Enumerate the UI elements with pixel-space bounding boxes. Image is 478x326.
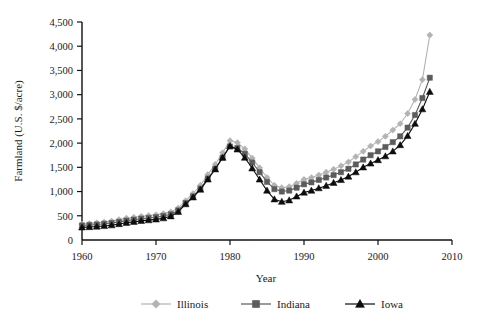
data-point-marker [338, 176, 345, 182]
data-point-marker [382, 153, 389, 159]
data-point-marker [404, 132, 411, 138]
y-tick-label: 0 [68, 235, 73, 246]
legend-marker-square-icon [252, 300, 259, 307]
y-tick-label: 4,000 [49, 41, 73, 52]
data-point-marker [412, 96, 418, 102]
chart-canvas: 05001,0001,5002,0002,5003,0003,5004,0004… [0, 0, 478, 326]
data-point-marker [301, 182, 306, 187]
data-point-marker [420, 95, 425, 100]
data-point-marker [352, 169, 359, 175]
data-point-marker [264, 187, 271, 193]
data-point-marker [398, 134, 403, 139]
data-point-marker [368, 153, 373, 158]
data-point-marker [427, 75, 432, 80]
chart-legend: IllinoisIndianaIowa [141, 298, 403, 310]
y-tick-label: 4,500 [49, 17, 73, 28]
data-point-marker [405, 125, 410, 130]
legend-label: Iowa [381, 298, 403, 310]
data-point-marker [360, 164, 367, 170]
x-tick-label: 2000 [368, 251, 389, 262]
x-tick-label: 1980 [220, 251, 241, 262]
series-illinois [79, 32, 433, 227]
legend-item-iowa[interactable]: Iowa [345, 298, 403, 310]
x-tick-label: 2010 [442, 251, 463, 262]
y-tick-label: 3,500 [49, 65, 73, 76]
data-point-marker [426, 88, 433, 94]
y-tick-label: 3,000 [49, 89, 73, 100]
data-point-marker [287, 188, 292, 193]
data-point-marker [338, 163, 344, 169]
y-axis-ticks: 05001,0001,5002,0002,5003,0003,5004,0004… [49, 17, 82, 246]
data-point-marker [316, 177, 321, 182]
x-axis-title: Year [256, 272, 277, 284]
legend-label: Indiana [277, 298, 310, 310]
data-point-marker [412, 112, 417, 117]
data-point-marker [427, 32, 433, 38]
data-point-marker [264, 179, 269, 184]
farmland-value-chart: 05001,0001,5002,0002,5003,0003,5004,0004… [0, 0, 478, 326]
data-point-marker [257, 170, 262, 175]
data-point-marker [331, 166, 337, 172]
data-point-marker [256, 176, 263, 182]
data-point-marker [346, 166, 351, 171]
data-point-marker [338, 170, 343, 175]
data-point-marker [309, 180, 314, 185]
data-point-marker [286, 197, 293, 203]
data-point-marker [375, 157, 382, 163]
legend-item-illinois[interactable]: Illinois [141, 298, 208, 310]
data-point-marker [279, 189, 284, 194]
data-point-marker [324, 175, 329, 180]
y-axis-title: Farmland (U.S. $/acre) [12, 80, 25, 182]
data-point-marker [294, 185, 299, 190]
y-tick-label: 2,000 [49, 138, 73, 149]
x-axis-ticks: 196019701980199020002010 [72, 240, 463, 262]
data-point-marker [419, 106, 426, 112]
data-point-marker [412, 120, 419, 126]
data-point-marker [390, 140, 395, 145]
data-series-group [79, 32, 434, 230]
data-point-marker [367, 160, 374, 166]
data-point-marker [375, 149, 380, 154]
legend-marker-diamond-icon [152, 300, 160, 308]
data-point-marker [361, 157, 366, 162]
series-iowa [79, 88, 434, 230]
data-point-marker [331, 172, 336, 177]
x-tick-label: 1960 [72, 251, 93, 262]
data-point-marker [353, 162, 358, 167]
series-indiana [79, 75, 432, 228]
data-point-marker [323, 169, 329, 175]
data-point-marker [383, 144, 388, 149]
y-tick-label: 500 [57, 211, 73, 222]
legend-item-indiana[interactable]: Indiana [241, 298, 310, 310]
y-tick-label: 1,500 [49, 162, 73, 173]
x-tick-label: 1990 [294, 251, 315, 262]
data-point-marker [345, 173, 352, 179]
data-point-marker [293, 193, 300, 199]
y-tick-label: 1,000 [49, 186, 73, 197]
y-tick-label: 2,500 [49, 114, 73, 125]
data-point-marker [272, 186, 277, 191]
legend-label: Illinois [177, 298, 208, 310]
x-tick-label: 1970 [146, 251, 167, 262]
data-point-marker [419, 77, 425, 83]
